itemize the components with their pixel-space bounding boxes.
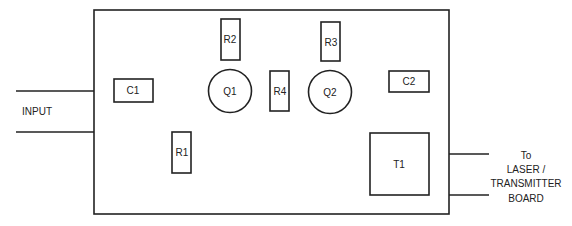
output-label-line-1: To — [521, 150, 532, 161]
label-c1: C1 — [127, 85, 140, 96]
input-label: INPUT — [22, 106, 52, 117]
output-label-line-3: TRANSMITTER — [490, 178, 561, 189]
label-q1: Q1 — [223, 86, 237, 97]
label-r3: R3 — [325, 37, 338, 48]
label-r2: R2 — [224, 34, 237, 45]
output-label-line-4: BOARD — [508, 193, 544, 204]
board-outline — [94, 10, 449, 214]
label-c2: C2 — [403, 76, 416, 87]
output-label-line-2: LASER / — [507, 164, 546, 175]
label-r4: R4 — [274, 86, 287, 97]
label-q2: Q2 — [323, 87, 337, 98]
label-t1: T1 — [393, 159, 405, 170]
label-r1: R1 — [176, 147, 189, 158]
circuit-board-layout: INPUT C1 R2 Q1 R4 R1 R3 Q2 C2 T1 To LASE… — [0, 0, 572, 226]
